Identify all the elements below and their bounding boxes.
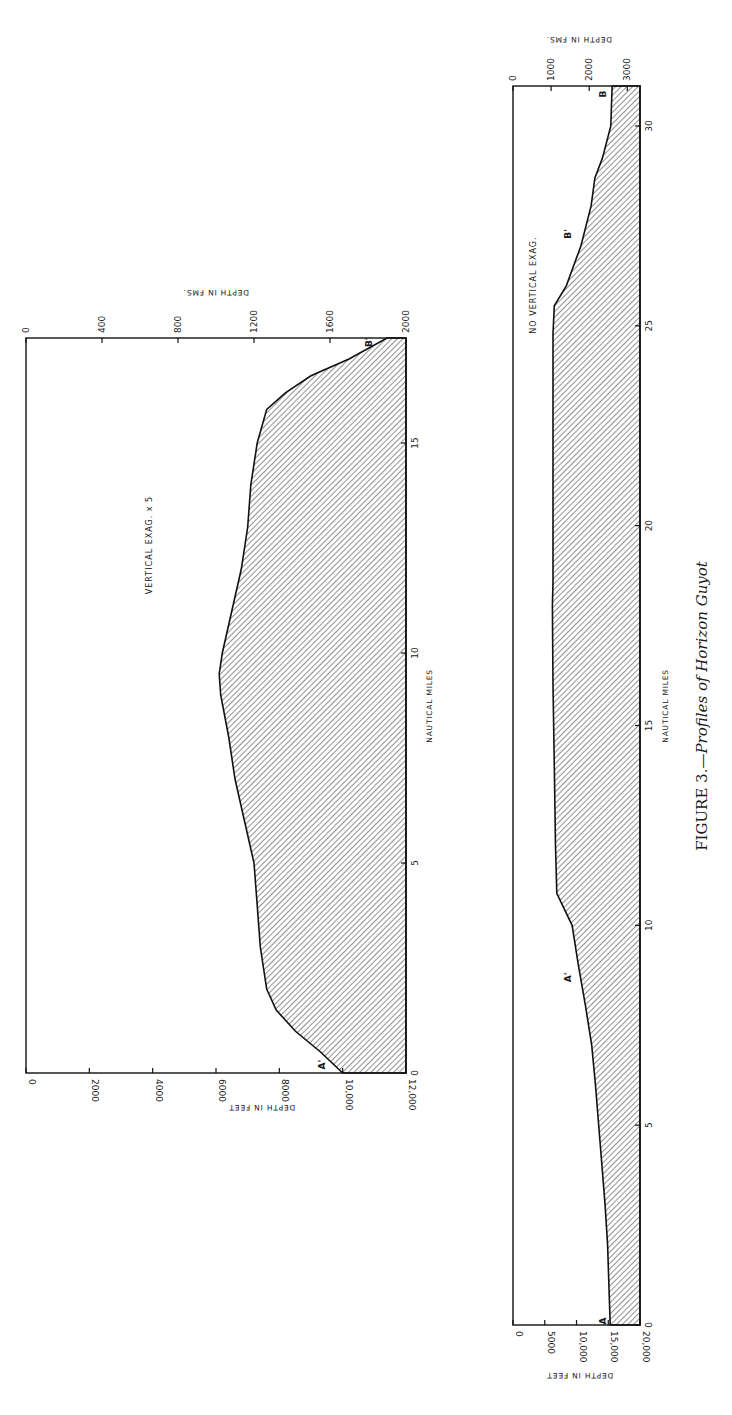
profile-point-label: B' (563, 229, 573, 239)
profile-point-label: B' (364, 337, 374, 347)
distance-tick-label: 0 (644, 1322, 654, 1328)
depth-feet-tick-label: 4000 (154, 1079, 164, 1102)
profile-point-label: A (598, 1317, 608, 1324)
distance-axis-label: NAUTICAL MILES (425, 669, 434, 743)
depth-fathoms-tick-label: 1600 (325, 310, 335, 333)
chart-no-vertical-exaggeration: 0500010,00015,00020,000 DEPTH IN FEET 01… (508, 35, 670, 1380)
distance-tick-label: 10 (644, 919, 654, 931)
depth-fathoms-tick-label: 2000 (584, 58, 594, 81)
depth-feet-tick-label: 10,000 (344, 1079, 354, 1111)
depth-fathoms-tick-label: 400 (97, 316, 107, 333)
depth-feet-axis: 0500010,00015,00020,000 DEPTH IN FEET (513, 1320, 651, 1380)
depth-fathoms-axis: 0400800120016002000 DEPTH IN FMS. (21, 288, 411, 343)
profile-point-label: B (598, 90, 608, 97)
depth-fathoms-axis-label: DEPTH IN FMS. (546, 35, 612, 44)
depth-fathoms-tick-label: 0 (21, 327, 31, 333)
depth-feet-tick-label: 10,000 (578, 1331, 588, 1363)
exaggeration-note: NO VERTICAL EXAG. (529, 236, 538, 333)
depth-feet-tick-label: 0 (27, 1079, 37, 1085)
depth-fathoms-axis-label: DEPTH IN FMS. (183, 288, 249, 297)
distance-tick-label: 25 (644, 320, 654, 331)
depth-feet-axis: 0200040006000800010,00012,000 DEPTH IN F… (26, 1068, 417, 1112)
caption-prefix: FIGURE 3.— (693, 754, 711, 851)
depth-feet-axis-label: DEPTH IN FEET (547, 1371, 614, 1380)
depth-feet-tick-label: 15,000 (609, 1331, 619, 1363)
depth-feet-axis-label: DEPTH IN FEET (229, 1103, 296, 1112)
depth-feet-tick-label: 2000 (90, 1079, 100, 1102)
depth-feet-tick-label: 0 (514, 1331, 524, 1337)
distance-tick-label: 5 (410, 860, 420, 866)
distance-tick-label: 0 (410, 1070, 420, 1076)
distance-tick-label: 5 (644, 1122, 654, 1128)
depth-fathoms-tick-label: 3000 (622, 58, 632, 81)
profile-point-label: A' (317, 1060, 327, 1070)
profile-point-label: A' (563, 972, 573, 982)
depth-feet-tick-label: 20,000 (641, 1331, 651, 1363)
caption-title: Profiles of Horizon Guyot (693, 560, 711, 754)
seafloor-profile-area (552, 86, 640, 1325)
depth-fathoms-tick-label: 1200 (249, 310, 259, 333)
depth-fathoms-tick-label: 2000 (401, 310, 411, 333)
seafloor-profile-area (219, 338, 406, 1073)
depth-fathoms-tick-label: 800 (173, 316, 183, 333)
distance-axis-label: NAUTICAL MILES (661, 669, 670, 743)
depth-feet-tick-label: 12,000 (407, 1079, 417, 1111)
depth-fathoms-tick-label: 1000 (546, 58, 556, 81)
depth-feet-tick-label: 5000 (546, 1331, 556, 1354)
distance-tick-label: 30 (644, 120, 654, 132)
depth-feet-tick-label: 8000 (280, 1079, 290, 1102)
figure: 0200040006000800010,00012,000 DEPTH IN F… (0, 0, 732, 1415)
exaggeration-note: VERTICAL EXAG. x 5 (145, 496, 154, 594)
distance-tick-label: 10 (410, 647, 420, 659)
figure-caption: FIGURE 3.—Profiles of Horizon Guyot (693, 560, 711, 851)
depth-feet-tick-label: 6000 (217, 1079, 227, 1102)
distance-tick-label: 15 (644, 720, 654, 731)
depth-fathoms-axis: 0100020003000 DEPTH IN FMS. (508, 35, 632, 91)
distance-tick-label: 15 (410, 437, 420, 448)
chart-vertical-exaggeration: 0200040006000800010,00012,000 DEPTH IN F… (21, 288, 434, 1112)
distance-tick-label: 20 (644, 520, 654, 532)
depth-fathoms-tick-label: 0 (508, 75, 518, 81)
